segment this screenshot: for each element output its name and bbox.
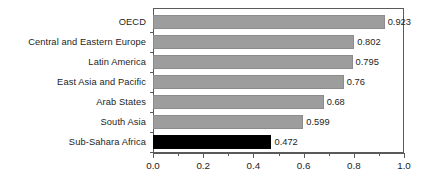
- x-axis-tick: [404, 153, 405, 158]
- bar: [153, 35, 354, 49]
- x-axis-tick-label: 1.0: [397, 160, 411, 172]
- bar-row: 0.795: [153, 52, 404, 72]
- bar-row: 0.68: [153, 92, 404, 112]
- x-axis-minor-tick: [178, 153, 179, 156]
- bar: [153, 135, 271, 149]
- category-label: South Asia: [101, 112, 146, 132]
- x-axis-tick: [203, 153, 204, 158]
- bar-value-label: 0.923: [388, 15, 411, 29]
- category-label: OECD: [119, 12, 146, 32]
- category-label: East Asia and Pacific: [57, 72, 146, 92]
- bar-row: 0.802: [153, 32, 404, 52]
- x-axis-tick-label: 0.2: [196, 160, 210, 172]
- bar-value-label: 0.68: [327, 95, 345, 109]
- x-axis-tick-label: 0.6: [297, 160, 311, 172]
- x-axis-tick: [304, 153, 305, 158]
- x-axis: 0.00.20.40.60.81.0: [153, 153, 404, 183]
- x-axis-minor-tick: [279, 153, 280, 156]
- bar-value-label: 0.795: [356, 55, 379, 69]
- category-label: Central and Eastern Europe: [28, 32, 146, 52]
- bars-layer: 0.9230.8020.7950.760.680.5990.472: [153, 12, 404, 152]
- x-axis-tick-label: 0.4: [247, 160, 261, 172]
- bar: [153, 15, 385, 29]
- category-label: Sub-Sahara Africa: [69, 132, 146, 152]
- bar: [153, 115, 303, 129]
- bar-row: 0.472: [153, 132, 404, 152]
- x-axis-tick: [153, 153, 154, 158]
- x-axis-minor-tick: [228, 153, 229, 156]
- bar-value-label: 0.802: [357, 35, 380, 49]
- x-axis-tick-label: 0.0: [146, 160, 160, 172]
- x-axis-tick: [354, 153, 355, 158]
- bar-row: 0.923: [153, 12, 404, 32]
- category-label: Arab States: [96, 92, 146, 112]
- bar-value-label: 0.472: [274, 135, 297, 149]
- category-label: Latin America: [88, 52, 146, 72]
- bar: [153, 75, 344, 89]
- x-axis-minor-tick: [329, 153, 330, 156]
- x-axis-tick-label: 0.8: [347, 160, 361, 172]
- category-axis-labels: OECDCentral and Eastern EuropeLatin Amer…: [0, 12, 149, 152]
- x-axis-tick: [253, 153, 254, 158]
- bar: [153, 95, 324, 109]
- bar-value-label: 0.76: [347, 75, 365, 89]
- bar-value-label: 0.599: [306, 115, 329, 129]
- x-axis-minor-tick: [379, 153, 380, 156]
- bar: [153, 55, 353, 69]
- bar-chart: OECDCentral and Eastern EuropeLatin Amer…: [0, 0, 426, 188]
- bar-row: 0.599: [153, 112, 404, 132]
- bar-row: 0.76: [153, 72, 404, 92]
